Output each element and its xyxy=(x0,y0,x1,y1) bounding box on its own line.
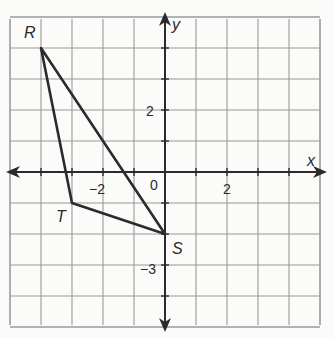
y-tick-label-neg3: −3 xyxy=(140,261,156,277)
x-tick-label-neg2: −2 xyxy=(89,181,105,197)
x-axis-label: x xyxy=(306,152,316,169)
y-axis-label: y xyxy=(171,16,181,33)
point-label-r: R xyxy=(24,24,36,41)
point-label-s: S xyxy=(172,240,183,257)
y-tick-label-2: 2 xyxy=(146,103,154,119)
origin-label: 0 xyxy=(150,177,158,193)
x-tick-label-2: 2 xyxy=(223,181,231,197)
labels: x y 0 −2 2 2 −3 R T S xyxy=(24,16,316,277)
coordinate-plane: x y 0 −2 2 2 −3 R T S xyxy=(0,0,333,338)
point-label-t: T xyxy=(56,208,67,225)
axes xyxy=(6,12,327,332)
